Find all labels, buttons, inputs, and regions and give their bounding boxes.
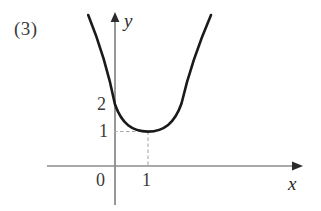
y-tick-label-2: 2 (97, 95, 106, 113)
y-axis-arrow-icon (111, 12, 120, 22)
graph-canvas (0, 0, 321, 211)
part-number-label: (3) (14, 19, 38, 38)
y-tick-label-1: 1 (99, 122, 108, 140)
x-axis-arrow-icon (292, 162, 303, 171)
figure-container: (3) y x 2 1 0 1 (0, 0, 321, 211)
origin-label: 0 (96, 171, 105, 189)
x-tick-label-1: 1 (142, 171, 151, 189)
x-axis-label: x (288, 174, 296, 193)
y-axis-label: y (124, 11, 132, 30)
parabola-curve (88, 15, 211, 132)
